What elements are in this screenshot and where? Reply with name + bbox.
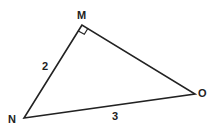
- triangle-diagram: M N O 2 3: [0, 0, 219, 129]
- triangle-mno: [24, 25, 195, 118]
- side-label-mn: 2: [42, 60, 48, 72]
- side-label-no: 3: [112, 110, 118, 122]
- vertex-label-m: M: [77, 9, 86, 21]
- vertex-label-n: N: [8, 113, 16, 125]
- vertex-label-o: O: [198, 87, 207, 99]
